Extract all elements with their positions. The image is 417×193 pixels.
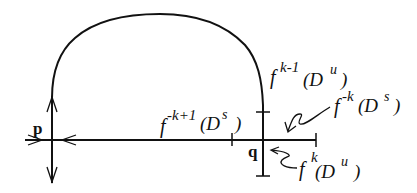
svg-text:): ) — [353, 161, 360, 183]
point-p-label: p — [33, 119, 42, 138]
svg-text:(D: (D — [315, 161, 335, 183]
homoclinic-diagram: p q f k-1 (D u ) f -k (D s ) f -k+1 (D s… — [0, 0, 417, 193]
svg-text:f: f — [299, 158, 307, 181]
label-fk-Du: f k (D u ) — [299, 149, 360, 183]
point-q-label: q — [248, 142, 258, 161]
svg-text:k-1: k-1 — [280, 59, 299, 75]
svg-text:): ) — [393, 95, 400, 117]
svg-text:(D: (D — [200, 113, 220, 135]
svg-text:(D: (D — [358, 95, 378, 117]
label-fk-1-Du: f k-1 (D u ) — [270, 59, 347, 91]
svg-text:s: s — [384, 89, 390, 104]
svg-text:-k+1: -k+1 — [167, 107, 196, 123]
label-f-k+1-Ds: f -k+1 (D s ) — [160, 107, 241, 138]
svg-text:f: f — [334, 95, 342, 118]
svg-text:(D: (D — [303, 69, 323, 91]
svg-text:u: u — [330, 62, 337, 77]
unstable-manifold-curve — [52, 14, 263, 176]
svg-text:f: f — [270, 66, 278, 89]
svg-text:s: s — [222, 107, 228, 122]
label-f-k-Ds: f -k (D s ) — [334, 88, 400, 118]
svg-text:-k: -k — [342, 88, 354, 104]
svg-text:u: u — [341, 154, 348, 169]
svg-text:): ) — [234, 113, 241, 135]
